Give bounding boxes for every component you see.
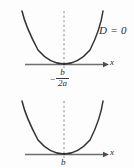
- x-axis-label-bottom: x: [110, 148, 114, 157]
- parabola-curve-bottom: [22, 101, 103, 154]
- parabola-figure: D = 0 x − b 2a x: [0, 0, 134, 168]
- vertex-fraction: b 2a: [56, 68, 69, 89]
- x-axis-label-top: x: [110, 58, 114, 67]
- vertex-minus-sign: −: [50, 74, 55, 83]
- vertex-value-bottom: b: [61, 158, 66, 167]
- vertex-point-bottom: [63, 153, 65, 155]
- vertex-point-top: [63, 63, 65, 65]
- parabola-panel-bottom: x b: [0, 90, 134, 168]
- vertex-fraction-numerator: b: [58, 68, 67, 77]
- vertex-value-top: − b 2a: [50, 68, 69, 89]
- discriminant-label-top: D = 0: [99, 25, 127, 36]
- parabola-panel-top: D = 0 x − b 2a: [0, 0, 134, 90]
- vertex-fraction-denominator: 2a: [56, 79, 69, 88]
- parabola-curve-top: [22, 11, 103, 64]
- x-axis-arrow-top: [103, 62, 109, 67]
- x-axis-arrow-bottom: [103, 152, 109, 157]
